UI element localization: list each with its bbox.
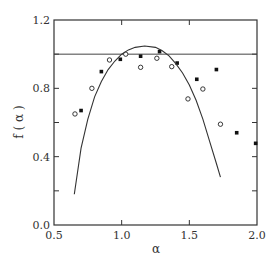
data-point-open — [73, 112, 77, 116]
y-axis-title: f ( α ) — [12, 105, 26, 138]
data-point-open — [107, 58, 111, 62]
data-point-filled — [100, 70, 104, 74]
y-tick-label: 0.4 — [33, 151, 51, 164]
data-point-open — [201, 87, 205, 91]
chart: 0.51.01.52.00.00.40.81.2 α f ( α ) — [0, 0, 279, 265]
data-point-open — [155, 56, 159, 60]
x-tick-label: 1.5 — [181, 229, 199, 242]
data-point-filled — [254, 142, 258, 146]
x-tick-label: 1.0 — [113, 229, 131, 242]
x-tick-label: 2.0 — [248, 229, 266, 242]
fit-curve — [74, 46, 220, 194]
y-tick-label: 0.0 — [33, 219, 51, 232]
data-point-filled — [195, 77, 199, 81]
axes: 0.51.01.52.00.00.40.81.2 — [33, 14, 266, 242]
y-tick-label: 1.2 — [33, 14, 51, 27]
data-point-filled — [235, 131, 239, 135]
plot-frame — [54, 20, 257, 225]
data-point-open — [186, 97, 190, 101]
data-point-filled — [215, 68, 219, 72]
x-axis-title: α — [152, 242, 160, 256]
data-point-filled — [119, 57, 123, 61]
plot-marks — [54, 46, 257, 194]
data-point-open — [90, 86, 94, 90]
data-point-open — [170, 64, 174, 68]
data-point-open — [138, 65, 142, 69]
y-tick-label: 0.8 — [33, 82, 51, 95]
data-point-open — [218, 122, 222, 126]
data-point-filled — [79, 109, 83, 113]
data-point-filled — [139, 54, 143, 58]
